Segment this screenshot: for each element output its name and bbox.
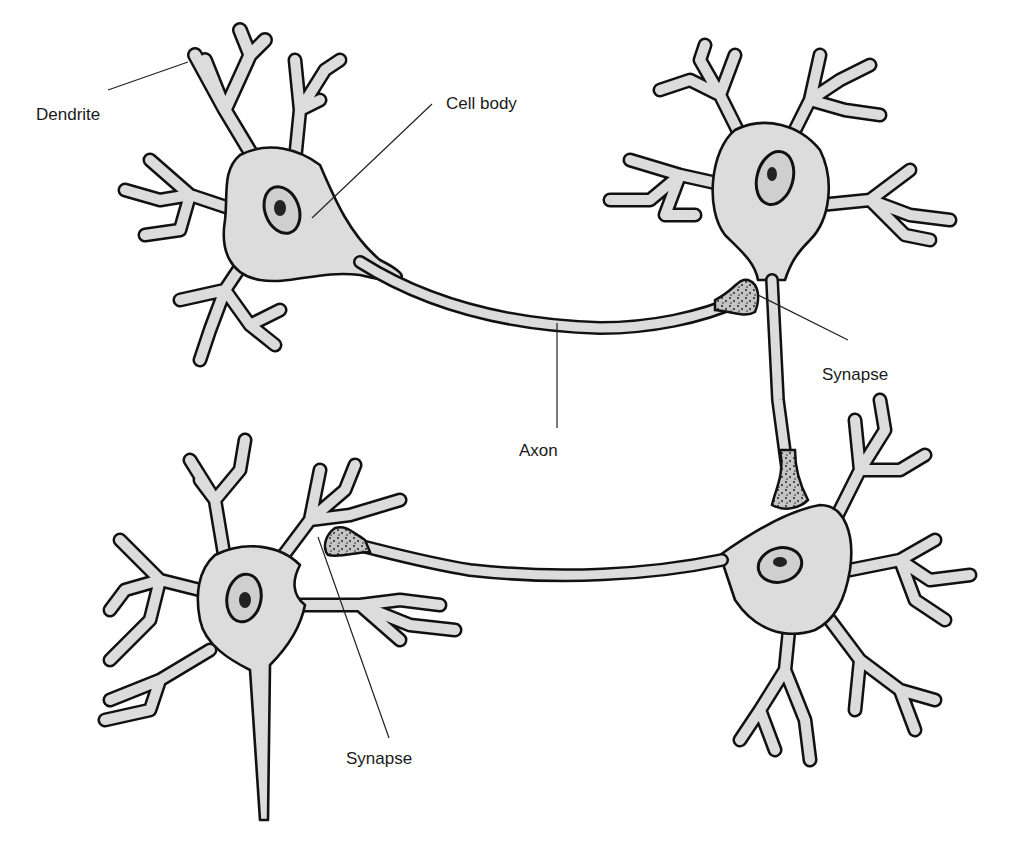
label-dendrite: Dendrite (36, 106, 100, 123)
nucleolus-bottom-left (239, 592, 251, 608)
leader-dendrite (108, 62, 188, 90)
neuron-illustration (0, 0, 1012, 868)
label-synapse-upper: Synapse (822, 366, 888, 383)
axon-terminal-top (715, 280, 758, 315)
axon-terminal-lower (325, 527, 370, 556)
axon-bottom-right (345, 542, 722, 575)
neuron-diagram: Dendrite Cell body Synapse Axon Synapse (0, 0, 1012, 868)
axon-terminal-right (772, 450, 808, 509)
nucleolus-top-left (274, 200, 286, 216)
label-cell-body: Cell body (446, 95, 517, 112)
nucleolus-top-right (767, 167, 777, 181)
neuron-top-right (610, 45, 950, 509)
nucleolus-bottom-right (773, 557, 787, 567)
label-synapse-lower: Synapse (346, 750, 412, 767)
label-axon: Axon (519, 442, 558, 459)
leader-cell-body (312, 104, 432, 218)
neuron-bottom-right (325, 400, 970, 760)
leader-synapse-lower (318, 537, 389, 738)
cell-body-top-left (224, 148, 402, 281)
